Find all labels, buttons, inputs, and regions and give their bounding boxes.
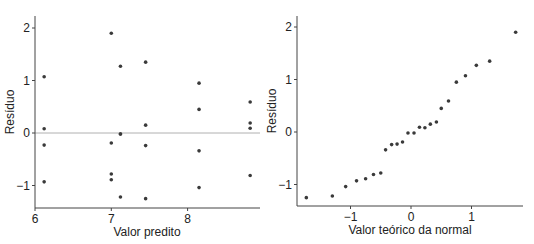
data-point xyxy=(379,171,383,175)
data-point xyxy=(119,195,123,199)
y-tick-label: −1 xyxy=(278,178,292,192)
data-point xyxy=(447,99,451,103)
data-point xyxy=(42,143,46,147)
data-point xyxy=(423,126,427,130)
data-point xyxy=(418,125,422,129)
data-point xyxy=(429,122,433,126)
x-tick-label: 8 xyxy=(184,212,191,226)
data-point xyxy=(390,143,394,147)
data-point xyxy=(364,177,368,181)
data-point xyxy=(144,144,148,148)
data-point xyxy=(395,142,399,146)
data-point xyxy=(384,148,388,152)
y-tick-label: 0 xyxy=(23,126,30,140)
data-point xyxy=(344,185,348,189)
x-tick-label: 1 xyxy=(468,210,475,224)
data-point xyxy=(197,108,201,112)
data-point xyxy=(305,196,309,200)
data-point xyxy=(331,194,335,198)
data-point xyxy=(42,75,46,79)
data-point xyxy=(475,64,479,68)
y-tick-label: 2 xyxy=(23,21,30,35)
x-axis-label: Valor predito xyxy=(113,225,180,239)
data-point xyxy=(248,126,252,130)
x-axis-label: Valor teórico da normal xyxy=(348,223,471,237)
data-point xyxy=(119,132,123,136)
y-axis-label: Resíduo xyxy=(265,88,279,133)
residuals-vs-predicted-plot: −1012678Valor preditoResíduo xyxy=(3,16,260,239)
data-point xyxy=(144,123,148,127)
y-tick-label: 0 xyxy=(285,125,292,139)
y-tick-label: −1 xyxy=(16,179,30,193)
x-tick-label: 0 xyxy=(408,210,415,224)
data-point xyxy=(42,180,46,184)
data-point xyxy=(144,60,148,64)
x-tick-label: 7 xyxy=(108,212,115,226)
x-tick-label: −1 xyxy=(344,210,358,224)
data-point xyxy=(439,107,443,111)
data-point xyxy=(248,121,252,125)
data-point xyxy=(406,131,410,135)
data-point xyxy=(144,197,148,201)
data-point xyxy=(42,127,46,131)
data-point xyxy=(412,131,416,135)
data-point xyxy=(248,100,252,104)
y-axis-label: Resíduo xyxy=(3,89,17,134)
data-point xyxy=(110,178,114,182)
data-point xyxy=(372,173,376,177)
data-point xyxy=(455,80,459,84)
data-point xyxy=(119,65,123,69)
data-point xyxy=(197,81,201,85)
data-point xyxy=(110,172,114,176)
data-point xyxy=(401,140,405,144)
residual-plots: −1012678Valor preditoResíduo −1012−101Va… xyxy=(0,0,534,244)
data-point xyxy=(197,186,201,190)
normal-qq-plot: −1012−101Valor teórico da normalResíduo xyxy=(265,16,523,237)
data-point xyxy=(110,31,114,35)
data-point xyxy=(197,149,201,153)
y-tick-label: 1 xyxy=(23,74,30,88)
y-tick-label: 2 xyxy=(285,20,292,34)
data-point xyxy=(110,141,114,145)
data-point xyxy=(248,174,252,178)
data-point xyxy=(514,30,518,34)
y-tick-label: 1 xyxy=(285,73,292,87)
data-point xyxy=(488,59,492,63)
x-tick-label: 6 xyxy=(32,212,39,226)
data-point xyxy=(464,74,468,78)
data-point xyxy=(435,120,439,124)
data-point xyxy=(355,179,359,183)
